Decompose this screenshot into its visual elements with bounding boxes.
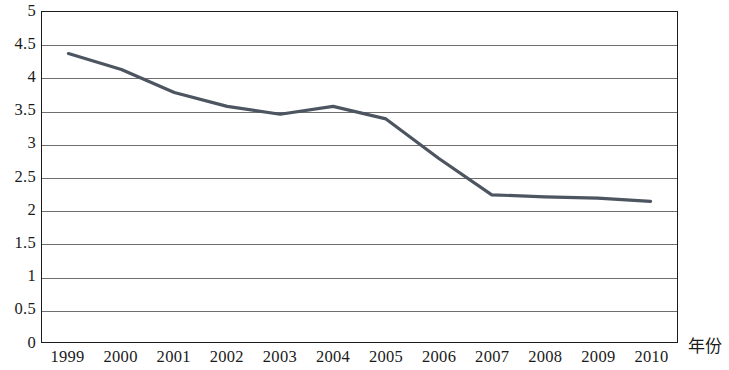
x-tick-label: 2008 [528,347,562,367]
y-tick-label: 1 [0,268,36,285]
x-tick-label: 2000 [103,347,137,367]
y-tick-label: 0.5 [0,301,36,318]
x-tick-label: 2001 [157,347,191,367]
series-polyline [68,54,650,202]
x-tick-label: 2009 [581,347,615,367]
y-tick-label: 5 [0,3,36,20]
x-axis: 1999200020012002200320042005200620072008… [41,347,678,370]
x-axis-title: 年份 [688,336,722,356]
line-chart: 00.511.522.533.544.55 199920002001200220… [0,0,729,370]
x-tick-label: 1999 [50,347,84,367]
x-tick-label: 2002 [210,347,244,367]
x-tick-label: 2010 [634,347,668,367]
y-tick-label: 0 [0,335,36,352]
y-tick-label: 3.5 [0,102,36,119]
y-tick-label: 4.5 [0,36,36,53]
data-series-line [42,12,677,342]
plot-area [41,11,678,343]
y-axis: 00.511.522.533.544.55 [0,0,36,370]
y-tick-label: 3 [0,135,36,152]
y-tick-label: 2 [0,202,36,219]
y-tick-label: 4 [0,69,36,86]
x-tick-label: 2004 [316,347,350,367]
x-tick-label: 2006 [422,347,456,367]
x-tick-label: 2005 [369,347,403,367]
x-tick-label: 2007 [475,347,509,367]
x-tick-label: 2003 [263,347,297,367]
y-tick-label: 1.5 [0,235,36,252]
y-tick-label: 2.5 [0,169,36,186]
